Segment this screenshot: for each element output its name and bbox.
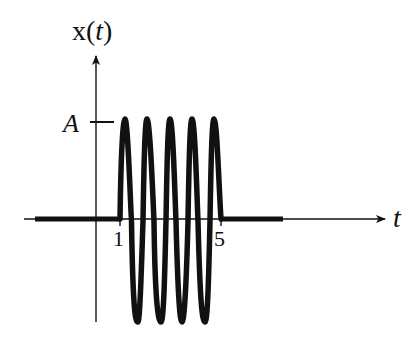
- y-axis-label: x(t): [72, 15, 112, 46]
- x-axis-label: t: [393, 202, 402, 233]
- amplitude-label: A: [61, 109, 79, 138]
- signal-diagram: x(t) A 1 5 t: [0, 0, 417, 342]
- signal-burst: [120, 119, 221, 322]
- tick-label-1: 1: [113, 226, 124, 251]
- tick-label-5: 5: [214, 226, 225, 251]
